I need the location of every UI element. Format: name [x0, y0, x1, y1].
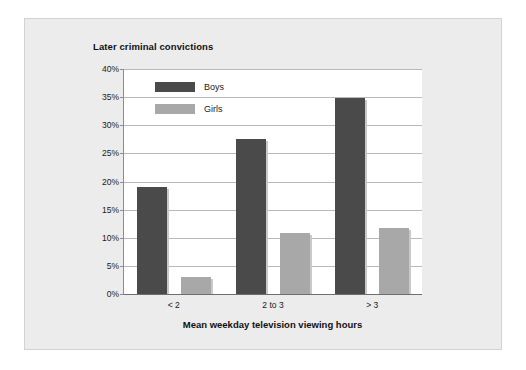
gridline [124, 266, 422, 267]
gridline [124, 153, 422, 154]
chart-title: Later criminal convictions [93, 41, 213, 52]
y-tick-mark [120, 266, 124, 267]
bar-body [236, 139, 266, 294]
legend-item-boys: Boys [155, 79, 224, 95]
y-tick-mark [120, 182, 124, 183]
gridline [124, 238, 422, 239]
y-tick-mark [120, 210, 124, 211]
bar-girls-1 [280, 233, 310, 294]
bar-body [137, 187, 167, 294]
figure-panel: Later criminal convictions 0%5%10%15%20%… [24, 18, 502, 350]
y-tick-label: 40% [102, 64, 119, 74]
bar-body [181, 277, 211, 294]
gridline [124, 69, 422, 70]
y-tick-label: 25% [102, 148, 119, 158]
y-tick-label: 15% [102, 205, 119, 215]
bar-boys-0 [137, 187, 167, 294]
bar-boys-1 [236, 139, 266, 294]
bar-body [335, 98, 365, 294]
y-tick-mark [120, 238, 124, 239]
gridline [124, 210, 422, 211]
gridline [124, 125, 422, 126]
y-tick-mark [120, 125, 124, 126]
x-axis-title: Mean weekday television viewing hours [123, 319, 422, 330]
bar-body [280, 233, 310, 294]
bar-body [379, 228, 409, 294]
y-tick-mark [120, 294, 124, 295]
y-tick-label: 10% [102, 233, 119, 243]
gridline [124, 182, 422, 183]
y-tick-label: 20% [102, 177, 119, 187]
bar-girls-0 [181, 277, 211, 294]
y-tick-mark [120, 97, 124, 98]
y-tick-label: 0% [107, 289, 119, 299]
legend-label: Girls [204, 104, 223, 114]
y-tick-label: 5% [107, 261, 119, 271]
legend-label: Boys [204, 82, 224, 92]
x-tick-label: 2 to 3 [262, 300, 283, 310]
bar-boys-2 [335, 98, 365, 294]
x-tick-label: > 3 [366, 300, 378, 310]
bar-girls-2 [379, 228, 409, 294]
y-tick-mark [120, 153, 124, 154]
x-tick-label: < 2 [168, 300, 180, 310]
y-tick-label: 35% [102, 92, 119, 102]
legend-swatch [155, 104, 195, 114]
legend-swatch [155, 82, 195, 92]
y-tick-mark [120, 69, 124, 70]
legend-item-girls: Girls [155, 101, 224, 117]
y-tick-label: 30% [102, 120, 119, 130]
chart-legend: BoysGirls [155, 79, 224, 123]
